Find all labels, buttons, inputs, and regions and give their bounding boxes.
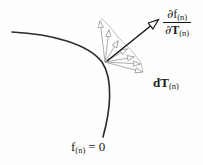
increment-label: dT(n) [153, 76, 179, 90]
yield-surface-subscript: (n) [75, 145, 85, 155]
yield-surface-equals: = 0 [88, 139, 105, 154]
gradient-numerator-subscript: (n) [177, 12, 187, 22]
gradient-denominator-subscript: (n) [179, 28, 189, 38]
gradient-denominator: ∂T(n) [163, 24, 191, 37]
fan-arrow-2 [105, 30, 109, 62]
incremental-direction-fan [100, 21, 142, 72]
gradient-label: ∂f(n) ∂T(n) [163, 8, 191, 38]
increment-subscript: (n) [169, 81, 179, 91]
gradient-arrow [107, 20, 158, 61]
figure-canvas: ∂f(n) ∂T(n) dT(n) f(n)= 0 [0, 0, 203, 165]
yield-surface-label: f(n)= 0 [71, 140, 105, 154]
increment-symbol: T [160, 75, 169, 90]
gradient-numerator: ∂f(n) [163, 8, 191, 21]
yield-surface-curve [12, 32, 110, 137]
fan-arrow-1 [100, 21, 105, 62]
